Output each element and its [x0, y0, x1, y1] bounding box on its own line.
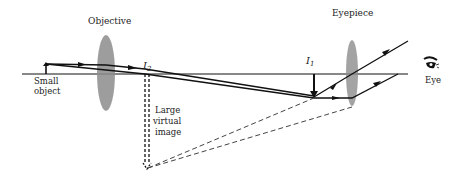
small-object-label-line2: object — [34, 86, 61, 96]
eye-icon — [424, 57, 439, 68]
ray-bottom — [46, 64, 314, 98]
eyepiece-label: Eyepiece — [332, 8, 373, 18]
small-object-label-line1: Small — [34, 76, 59, 86]
microscope-ray-diagram: Objective Eyepiece Small object I2 I1 La… — [0, 0, 464, 184]
eye-label: Eye — [425, 75, 441, 85]
i1-label: I1 — [305, 55, 314, 68]
objective-lens — [97, 35, 115, 111]
ray-exit-upper — [314, 41, 408, 97]
virtual-image-label-line1: Large — [155, 105, 180, 115]
virtual-image-arrowhead — [143, 163, 151, 169]
ray-arrow-1 — [78, 62, 86, 67]
i2-label: I2 — [142, 60, 152, 73]
objective-label: Objective — [88, 16, 131, 26]
ray-top — [46, 64, 314, 96]
ray-arrow-4 — [332, 96, 340, 100]
virtual-image-label-line3: image — [155, 127, 181, 137]
virtual-image-label-line2: virtual — [152, 116, 182, 126]
